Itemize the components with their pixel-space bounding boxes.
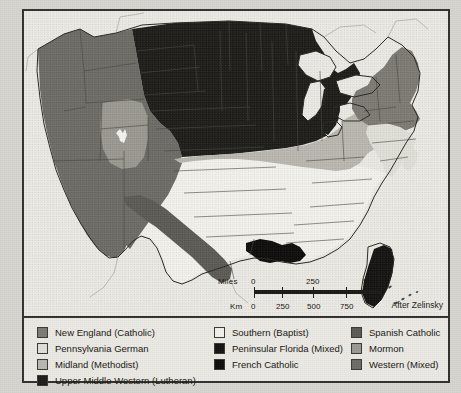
legend-swatch-midland-methodist xyxy=(37,359,48,370)
legend-swatch-peninsular-florida-mixed xyxy=(214,343,225,354)
legend-item-upper-middle-western-lutheran: Upper Middle Western (Lutheran) xyxy=(37,373,196,388)
legend-label-western-mixed: Western (Mixed) xyxy=(369,359,439,370)
legend-swatch-mormon xyxy=(351,343,362,354)
legend-item-new-england-catholic: New England (Catholic) xyxy=(37,325,196,340)
map-credit: After Zelinsky xyxy=(392,300,444,310)
scale-miles-tick-250: 250 xyxy=(306,277,319,286)
legend-label-mormon: Mormon xyxy=(369,343,404,354)
scale-bar: Miles Km 0 250 500 0 250 500 750 xyxy=(218,277,398,315)
scale-miles-tick-0: 0 xyxy=(251,277,255,286)
legend-column-2: Southern (Baptist)Peninsular Florida (Mi… xyxy=(214,325,343,373)
legend-label-peninsular-florida-mixed: Peninsular Florida (Mixed) xyxy=(232,343,343,354)
legend-column-3: Spanish CatholicMormonWestern (Mixed) xyxy=(351,325,440,373)
legend-item-mormon: Mormon xyxy=(351,341,440,356)
scale-km-tick-250: 250 xyxy=(276,302,289,311)
scale-km-label: Km xyxy=(230,302,242,311)
scale-bar-line xyxy=(254,290,382,294)
scale-km-tick-0: 0 xyxy=(251,302,255,311)
scale-km-tick-750: 750 xyxy=(340,302,353,311)
map-grain-overlay xyxy=(24,11,448,316)
map-figure: Miles Km 0 250 500 0 250 500 750 After Z… xyxy=(0,0,461,393)
legend-label-pennsylvania-german: Pennsylvania German xyxy=(55,343,148,354)
scale-tick-mark-4 xyxy=(381,287,382,298)
legend-item-french-catholic: French Catholic xyxy=(214,357,343,372)
legend-item-midland-methodist: Midland (Methodist) xyxy=(37,357,196,372)
legend-swatch-southern-baptist xyxy=(214,327,225,338)
legend-swatch-upper-middle-western-lutheran xyxy=(37,375,48,386)
scale-km-tick-500: 500 xyxy=(307,302,320,311)
scale-tick-mark-0 xyxy=(254,287,255,298)
legend-swatch-new-england-catholic xyxy=(37,327,48,338)
legend-label-southern-baptist: Southern (Baptist) xyxy=(232,327,309,338)
us-religious-regions-map xyxy=(24,11,448,316)
map-canvas xyxy=(24,11,448,316)
scale-tick-mark-1 xyxy=(282,287,283,298)
legend-item-southern-baptist: Southern (Baptist) xyxy=(214,325,343,340)
legend-swatch-western-mixed xyxy=(351,359,362,370)
legend-label-midland-methodist: Midland (Methodist) xyxy=(55,359,138,370)
region-fills xyxy=(24,11,448,316)
legend-swatch-spanish-catholic xyxy=(351,327,362,338)
scale-tick-mark-2 xyxy=(313,287,314,298)
legend-column-1: New England (Catholic)Pennsylvania Germa… xyxy=(37,325,196,389)
legend-item-peninsular-florida-mixed: Peninsular Florida (Mixed) xyxy=(214,341,343,356)
map-legend: New England (Catholic)Pennsylvania Germa… xyxy=(24,316,448,381)
scale-miles-label: Miles xyxy=(218,277,238,286)
figure-frame: Miles Km 0 250 500 0 250 500 750 After Z… xyxy=(22,9,450,383)
legend-swatch-french-catholic xyxy=(214,359,225,370)
legend-item-spanish-catholic: Spanish Catholic xyxy=(351,325,440,340)
legend-label-upper-middle-western-lutheran: Upper Middle Western (Lutheran) xyxy=(55,375,196,386)
scale-miles-tick-500: 500 xyxy=(363,277,376,286)
legend-label-new-england-catholic: New England (Catholic) xyxy=(55,327,155,338)
legend-swatch-pennsylvania-german xyxy=(37,343,48,354)
legend-label-french-catholic: French Catholic xyxy=(232,359,299,370)
legend-item-western-mixed: Western (Mixed) xyxy=(351,357,440,372)
legend-label-spanish-catholic: Spanish Catholic xyxy=(369,327,440,338)
scale-tick-mark-3 xyxy=(346,287,347,298)
legend-item-pennsylvania-german: Pennsylvania German xyxy=(37,341,196,356)
